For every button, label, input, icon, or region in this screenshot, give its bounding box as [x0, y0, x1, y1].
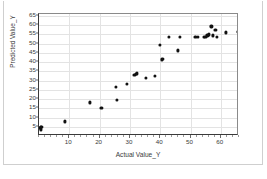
data-point — [144, 77, 147, 80]
y-axis-tick-mark — [36, 116, 39, 117]
x-axis-minor-tick — [123, 135, 124, 137]
x-axis-tick-label: 20 — [95, 139, 102, 145]
x-axis-minor-tick — [238, 135, 239, 137]
data-point — [237, 31, 238, 34]
y-axis-tick-mark — [36, 51, 39, 52]
data-point — [178, 35, 181, 38]
data-point — [115, 99, 118, 102]
x-axis-minor-tick — [183, 135, 184, 137]
x-axis-tick-label: 50 — [186, 139, 193, 145]
x-axis-minor-tick — [171, 135, 172, 137]
gridline-vertical — [130, 14, 131, 134]
data-point — [40, 125, 43, 128]
x-axis-minor-tick — [165, 135, 166, 137]
x-axis-title: Actual Value_Y — [38, 151, 238, 158]
x-axis-minor-tick — [56, 135, 57, 137]
gridline-vertical — [69, 14, 70, 134]
gridline-vertical — [221, 14, 222, 134]
x-axis-minor-tick — [111, 135, 112, 137]
y-axis-tick-mark — [36, 24, 39, 25]
x-axis-minor-tick — [232, 135, 233, 137]
data-point — [161, 57, 164, 60]
scatter-chart-figure: 5101520253035404550556065 102030405060 P… — [0, 0, 267, 179]
y-axis-tick-mark — [36, 79, 39, 80]
x-axis-tick-mark — [159, 135, 160, 138]
y-axis-tick-mark — [36, 98, 39, 99]
data-point — [153, 75, 156, 78]
x-axis-minor-tick — [93, 135, 94, 137]
y-axis-tick-mark — [36, 14, 39, 15]
gridline-vertical — [160, 14, 161, 134]
y-axis-tick-mark — [36, 88, 39, 89]
x-axis-minor-tick — [214, 135, 215, 137]
x-axis-minor-tick — [86, 135, 87, 137]
y-axis-tick-labels: 5101520253035404550556065 — [18, 13, 36, 135]
data-point — [207, 33, 210, 36]
gridline-vertical — [191, 14, 192, 134]
y-axis-tick-mark — [36, 42, 39, 43]
x-axis-minor-tick — [105, 135, 106, 137]
x-axis-minor-tick — [153, 135, 154, 137]
data-point — [210, 25, 213, 28]
x-axis-minor-tick — [177, 135, 178, 137]
data-point — [214, 28, 217, 31]
x-axis-tick-mark — [190, 135, 191, 138]
data-point — [125, 82, 128, 85]
x-axis-minor-tick — [117, 135, 118, 137]
data-point — [114, 85, 117, 88]
y-axis-tick-mark — [36, 125, 39, 126]
gridline-vertical — [100, 14, 101, 134]
x-axis-tick-mark — [129, 135, 130, 138]
y-axis-tick-mark — [36, 61, 39, 62]
x-axis-minor-tick — [74, 135, 75, 137]
data-point — [39, 128, 42, 131]
x-axis-tick-label: 30 — [125, 139, 132, 145]
x-axis-tick-mark — [68, 135, 69, 138]
data-point — [88, 101, 91, 104]
data-point — [196, 36, 199, 39]
data-point — [136, 72, 139, 75]
x-axis-minor-tick — [202, 135, 203, 137]
y-axis-title: Predicted Value_Y — [9, 0, 16, 90]
x-axis-tick-mark — [99, 135, 100, 138]
x-axis-tick-label: 10 — [65, 139, 72, 145]
y-axis-tick-mark — [36, 107, 39, 108]
x-axis-minor-tick — [50, 135, 51, 137]
x-axis-minor-tick — [196, 135, 197, 137]
data-point — [215, 35, 218, 38]
y-axis-tick-mark — [36, 33, 39, 34]
x-axis-minor-tick — [38, 135, 39, 137]
data-point — [167, 35, 170, 38]
x-axis-minor-tick — [141, 135, 142, 137]
data-point — [63, 120, 66, 123]
x-axis-minor-tick — [226, 135, 227, 137]
x-axis-minor-tick — [44, 135, 45, 137]
x-axis-tick-label: 60 — [216, 139, 223, 145]
plot-area — [38, 13, 238, 135]
x-axis-minor-tick — [80, 135, 81, 137]
x-axis-tick-label: 40 — [156, 139, 163, 145]
x-axis-tick-mark — [220, 135, 221, 138]
x-axis-minor-tick — [135, 135, 136, 137]
data-point — [176, 49, 179, 52]
x-axis-minor-tick — [208, 135, 209, 137]
y-axis-tick-mark — [36, 70, 39, 71]
x-axis-minor-tick — [62, 135, 63, 137]
x-axis-minor-tick — [147, 135, 148, 137]
